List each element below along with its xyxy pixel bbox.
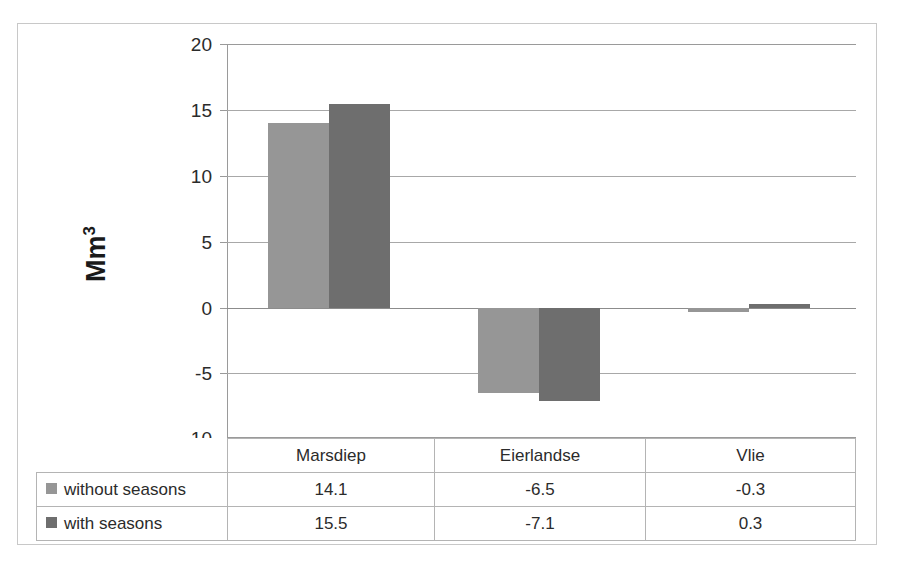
y-tick-10 — [220, 176, 227, 177]
gridline-15 — [227, 110, 856, 111]
legend-swatch-icon-with-seasons — [46, 517, 57, 528]
y-tick-5 — [220, 242, 227, 243]
table-header-eierlandse: Eierlandse — [435, 439, 646, 473]
y-tick-0 — [220, 308, 227, 309]
table-header-marsdiep: Marsdiep — [228, 439, 435, 473]
chart-figure: Mm3 20 15 10 5 0 -5 -10 — [0, 0, 897, 568]
plot-top-border — [227, 44, 856, 45]
legend-label-with-seasons: with seasons — [64, 514, 162, 533]
table-row: without seasons 14.1 -6.5 -0.3 — [37, 473, 856, 507]
legend-item-without-seasons: without seasons — [37, 473, 228, 507]
table-row: with seasons 15.5 -7.1 0.3 — [37, 507, 856, 541]
y-tick-20 — [220, 44, 227, 45]
cell-without-seasons-marsdiep: 14.1 — [228, 473, 435, 507]
legend-label-without-seasons: without seasons — [64, 480, 186, 499]
y-tick-label-5: 5 — [152, 233, 212, 252]
table-header-vlie: Vlie — [646, 439, 856, 473]
y-tick-label-15: 15 — [152, 101, 212, 120]
y-tick-label-neg5: -5 — [152, 364, 212, 383]
y-axis-title-text: Mm — [81, 235, 111, 282]
y-tick-neg5 — [220, 373, 227, 374]
y-axis-title: Mm3 — [36, 194, 156, 314]
table-corner-cell — [37, 439, 228, 473]
y-tick-15 — [220, 110, 227, 111]
y-tick-label-20: 20 — [152, 35, 212, 54]
cell-with-seasons-eierlandse: -7.1 — [435, 507, 646, 541]
bar-eierlandse-without-seasons — [478, 308, 539, 393]
y-tick-label-10: 10 — [152, 167, 212, 186]
table-header-row: Marsdiep Eierlandse Vlie — [37, 439, 856, 473]
bar-eierlandse-with-seasons — [539, 308, 600, 401]
bar-marsdiep-with-seasons — [329, 104, 390, 308]
legend-swatch-icon-without-seasons — [46, 483, 57, 494]
y-axis-title-superscript: 3 — [80, 226, 99, 235]
plot-area — [227, 44, 856, 438]
data-table: Marsdiep Eierlandse Vlie without seasons… — [36, 438, 856, 541]
bar-marsdiep-without-seasons — [268, 123, 329, 308]
cell-without-seasons-vlie: -0.3 — [646, 473, 856, 507]
cell-without-seasons-eierlandse: -6.5 — [435, 473, 646, 507]
cell-with-seasons-marsdiep: 15.5 — [228, 507, 435, 541]
bar-vlie-with-seasons — [749, 304, 810, 308]
legend-item-with-seasons: with seasons — [37, 507, 228, 541]
bar-vlie-without-seasons — [688, 308, 749, 312]
cell-with-seasons-vlie: 0.3 — [646, 507, 856, 541]
y-tick-label-0: 0 — [152, 299, 212, 318]
